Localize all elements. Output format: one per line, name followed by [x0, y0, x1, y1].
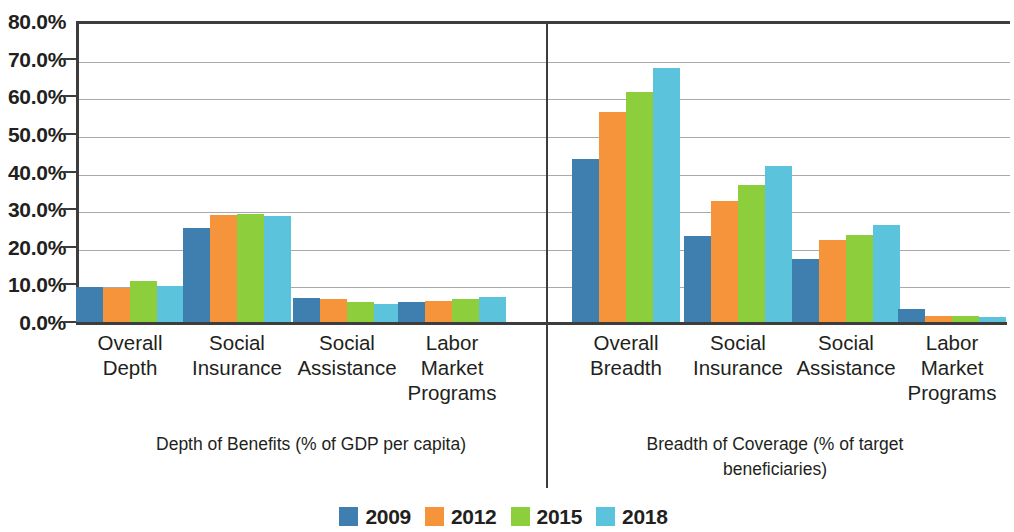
- bar: [572, 159, 599, 322]
- bar: [237, 214, 264, 322]
- panel-caption: Depth of Benefits (% of GDP per capita): [111, 432, 511, 457]
- y-axis-tick-label: 60.0%: [8, 86, 66, 107]
- bars-layer: [76, 21, 1007, 322]
- y-axis-tick-mark: [64, 133, 76, 135]
- bar: [738, 185, 765, 322]
- bar: [952, 316, 979, 322]
- category-label-line: Labor: [372, 330, 532, 355]
- category-label: LaborMarketPrograms: [872, 330, 1014, 405]
- y-axis-tick-label: 20.0%: [8, 236, 66, 257]
- bar: [157, 286, 184, 322]
- bar: [452, 299, 479, 322]
- bar: [846, 235, 873, 322]
- bar: [293, 298, 320, 322]
- bar: [873, 225, 900, 322]
- category-label-line: Programs: [872, 380, 1014, 405]
- bar: [898, 309, 925, 322]
- bar-group: [76, 21, 184, 322]
- legend-color-swatch: [596, 507, 615, 526]
- y-axis-tick-mark: [64, 246, 76, 248]
- y-axis-tick-label: 70.0%: [8, 48, 66, 69]
- legend-item: 2015: [511, 506, 583, 527]
- category-label-line: Market: [372, 355, 532, 380]
- legend-color-swatch: [339, 507, 358, 526]
- bar: [425, 301, 452, 322]
- y-axis-tick-mark: [64, 95, 76, 97]
- bar: [653, 68, 680, 322]
- bar-group: [572, 21, 680, 322]
- y-axis-tick-label: 40.0%: [8, 161, 66, 182]
- panel-caption-line: beneficiaries): [575, 457, 975, 482]
- y-axis-tick-mark: [64, 283, 76, 285]
- legend-label: 2018: [622, 506, 668, 527]
- bar: [979, 317, 1006, 322]
- legend-item: 2009: [339, 506, 411, 527]
- bar: [925, 316, 952, 322]
- y-axis-tick-mark: [64, 208, 76, 210]
- panel-caption: Breadth of Coverage (% of targetbenefici…: [575, 432, 975, 482]
- category-axis-labels: OverallDepthSocialInsuranceSocialAssista…: [76, 330, 1007, 420]
- bar: [210, 215, 237, 322]
- category-label-line: Labor: [872, 330, 1014, 355]
- bar: [792, 259, 819, 322]
- legend-label: 2012: [451, 506, 497, 527]
- y-axis-tick-label: 30.0%: [8, 199, 66, 220]
- bar-group: [684, 21, 792, 322]
- bar: [626, 92, 653, 322]
- legend-item: 2012: [425, 506, 497, 527]
- bar-group: [183, 21, 291, 322]
- panel-caption-line: Depth of Benefits (% of GDP per capita): [111, 432, 511, 457]
- category-label: LaborMarketPrograms: [372, 330, 532, 405]
- bar: [684, 236, 711, 322]
- category-label-line: Programs: [372, 380, 532, 405]
- bar: [599, 112, 626, 322]
- bar: [765, 166, 792, 322]
- y-axis-tick-mark: [64, 171, 76, 173]
- y-axis-tick-label: 80.0%: [8, 11, 66, 32]
- bar: [183, 228, 210, 322]
- y-axis-tick-mark: [64, 58, 76, 60]
- x-axis-line: [76, 322, 1007, 325]
- bar-group: [898, 21, 1006, 322]
- legend-label: 2009: [365, 506, 411, 527]
- y-axis-tick-mark: [64, 321, 76, 323]
- category-label-line: Market: [872, 355, 1014, 380]
- chart-legend: 2009201220152018: [0, 500, 1007, 532]
- bar-group: [293, 21, 401, 322]
- bar: [479, 297, 506, 322]
- bar: [398, 302, 425, 322]
- bar: [819, 240, 846, 322]
- bar: [103, 288, 130, 322]
- y-axis: 0.0%10.0%20.0%30.0%40.0%50.0%60.0%70.0%8…: [0, 0, 74, 332]
- bar: [130, 281, 157, 322]
- panel-caption-line: Breadth of Coverage (% of target: [575, 432, 975, 457]
- legend-color-swatch: [511, 507, 530, 526]
- bar: [711, 201, 738, 322]
- panel-captions: Depth of Benefits (% of GDP per capita)B…: [76, 432, 1007, 488]
- bar: [347, 302, 374, 322]
- legend-label: 2015: [537, 506, 583, 527]
- legend-color-swatch: [425, 507, 444, 526]
- bar-group: [398, 21, 506, 322]
- bar: [264, 216, 291, 322]
- y-axis-tick-label: 10.0%: [8, 274, 66, 295]
- bar-group: [792, 21, 900, 322]
- bar: [76, 287, 103, 322]
- bar: [374, 304, 401, 322]
- legend-item: 2018: [596, 506, 668, 527]
- y-axis-tick-label: 50.0%: [8, 123, 66, 144]
- bar: [320, 299, 347, 322]
